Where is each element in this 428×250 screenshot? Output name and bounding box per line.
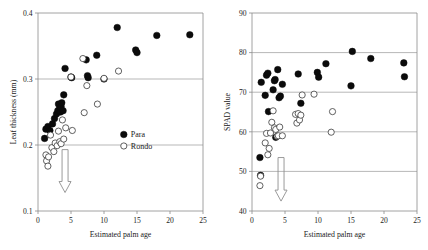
data-point [329, 109, 335, 115]
data-point [298, 112, 304, 118]
legend-marker-para [121, 131, 128, 138]
data-point [85, 74, 92, 81]
data-point [401, 60, 408, 67]
x-axis-title: Estimated palm age [304, 230, 366, 239]
data-point [45, 163, 51, 169]
data-point [80, 55, 86, 61]
xtick-label-15: 15 [347, 216, 355, 225]
data-point [279, 81, 286, 88]
xtick-label-0: 0 [250, 216, 254, 225]
legend-marker-rondo [121, 143, 127, 149]
data-point [60, 107, 67, 114]
xtick-label-20: 20 [166, 216, 174, 225]
data-point [258, 79, 265, 86]
data-point [323, 60, 330, 67]
data-point [401, 73, 408, 80]
data-point [279, 133, 285, 139]
panel-leaf-thickness: 0.10.20.30.40510152025Estimated palm age… [0, 0, 214, 250]
data-point [114, 24, 121, 31]
data-point [63, 125, 69, 131]
data-point [101, 75, 107, 81]
xtick-label-10: 10 [100, 216, 108, 225]
data-point [61, 136, 67, 142]
series-para [41, 24, 193, 141]
data-point [257, 154, 264, 161]
x-axis-title: Estimated palm age [90, 230, 152, 239]
ytick-label-50: 50 [239, 167, 247, 176]
xtick-label-5: 5 [69, 216, 73, 225]
data-point [69, 127, 75, 133]
data-point [266, 145, 272, 151]
data-point [51, 149, 57, 155]
data-point [62, 65, 69, 72]
ytick-label-40: 40 [239, 207, 247, 216]
data-point [154, 32, 161, 39]
xtick-label-15: 15 [133, 216, 141, 225]
data-point [59, 117, 65, 123]
ytick-label-0.1: 0.1 [23, 207, 33, 216]
data-point [311, 91, 317, 97]
leaf-thickness-plot: 0.10.20.30.40510152025Estimated palm age… [0, 0, 214, 250]
data-point [298, 100, 305, 107]
down-arrow-annotation-0 [59, 150, 71, 193]
data-point [262, 92, 269, 99]
data-point [55, 128, 61, 134]
data-point [68, 74, 74, 80]
data-point [60, 92, 67, 99]
data-point [262, 140, 268, 146]
data-point [265, 152, 271, 158]
data-point [41, 135, 48, 142]
xtick-label-5: 5 [283, 216, 287, 225]
ytick-label-90: 90 [239, 9, 247, 18]
ytick-label-0.2: 0.2 [23, 141, 33, 150]
down-arrow-annotation-0 [275, 158, 287, 202]
data-point [299, 92, 305, 98]
data-point [348, 83, 355, 90]
data-point [58, 99, 65, 106]
data-point [134, 49, 141, 56]
ytick-label-0.3: 0.3 [23, 75, 33, 84]
data-point [270, 87, 277, 94]
y-axis-title: SPAD value [223, 92, 232, 131]
figure-scatter-pair: 0.10.20.30.40510152025Estimated palm age… [0, 0, 428, 250]
legend-label-rondo: Rondo [131, 142, 152, 151]
ytick-label-60: 60 [239, 128, 247, 137]
data-point [349, 48, 356, 55]
data-point [93, 52, 100, 59]
data-point [274, 66, 281, 73]
data-point [265, 70, 272, 77]
data-point [277, 93, 284, 100]
data-point [315, 74, 322, 81]
data-point [47, 132, 53, 138]
ytick-label-70: 70 [239, 88, 247, 97]
series-rondo [257, 91, 336, 189]
panel-spad-value: 4050607080900510152025Estimated palm age… [214, 0, 428, 250]
data-point [277, 124, 283, 130]
data-point [45, 154, 51, 160]
data-point [115, 68, 121, 74]
data-point [84, 83, 90, 89]
data-point [94, 101, 100, 107]
data-point [368, 55, 375, 62]
spad-value-plot: 4050607080900510152025Estimated palm age… [214, 0, 428, 250]
ytick-label-0.4: 0.4 [23, 9, 33, 18]
xtick-label-20: 20 [380, 216, 388, 225]
xtick-label-25: 25 [199, 216, 207, 225]
data-point [328, 129, 334, 135]
xtick-label-25: 25 [413, 216, 421, 225]
xtick-label-0: 0 [36, 216, 40, 225]
data-point [81, 110, 87, 116]
data-point [187, 31, 194, 38]
data-point [295, 71, 302, 78]
data-point [272, 76, 279, 83]
legend-label-para: Para [131, 130, 146, 139]
y-axis-title: Leaf thickness (mm) [9, 79, 18, 144]
xtick-label-10: 10 [314, 216, 322, 225]
data-point [257, 173, 263, 179]
data-point [257, 183, 263, 189]
data-point [270, 108, 276, 114]
ytick-label-80: 80 [239, 48, 247, 57]
